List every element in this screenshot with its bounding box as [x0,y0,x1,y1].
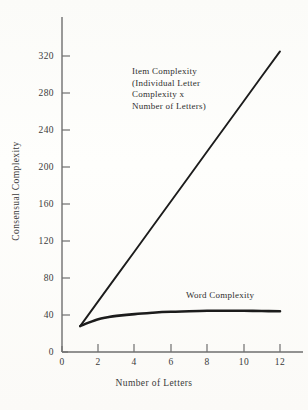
ytick-label-80: 80 [24,273,54,283]
ytick-label-240: 240 [24,125,54,135]
x-axis-ticks [62,344,280,352]
annotation-word-complexity: Word Complexity [186,290,254,302]
y-axis-label: Consensual Complexity [11,131,21,251]
ytick-label-200: 200 [24,162,54,172]
annotation-item-complexity-line-1: Item Complexity [132,66,206,78]
xtick-label-10: 10 [234,357,254,367]
xtick-label-8: 8 [197,357,217,367]
xtick-label-12: 12 [270,357,290,367]
ytick-label-280: 280 [24,88,54,98]
xtick-label-2: 2 [88,357,108,367]
xtick-label-4: 4 [124,357,144,367]
chart-figure: 0 40 80 120 160 200 240 280 320 0 2 4 6 … [0,0,308,410]
ytick-label-320: 320 [24,51,54,61]
ytick-label-160: 160 [24,199,54,209]
series-word-complexity-curve [80,311,280,326]
annotation-item-complexity-line-2: (Individual Letter [132,78,206,90]
ytick-label-120: 120 [24,236,54,246]
xtick-label-6: 6 [161,357,181,367]
y-axis-ticks [62,56,70,352]
xtick-label-0: 0 [52,357,72,367]
x-axis-label: Number of Letters [0,378,308,388]
ytick-label-0: 0 [24,347,54,357]
annotation-item-complexity: Item Complexity (Individual Letter Compl… [132,66,206,112]
annotation-item-complexity-line-3: Complexity x [132,89,206,101]
ytick-label-40: 40 [24,310,54,320]
annotation-item-complexity-line-4: Number of Letters) [132,101,206,113]
